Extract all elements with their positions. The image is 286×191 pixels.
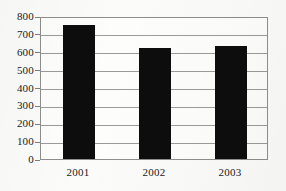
bar-chart-image: 8007006005004003002001000 200120022003 bbox=[0, 0, 286, 191]
bar-2001 bbox=[63, 25, 95, 159]
y-axis-label-group: 8007006005004003002001000 bbox=[0, 0, 34, 191]
x-axis-tick-label: 2001 bbox=[48, 166, 108, 178]
x-axis-tick-label: 2002 bbox=[124, 166, 184, 178]
y-axis-tick-label: 0 bbox=[0, 154, 34, 165]
y-axis-tick-label: 400 bbox=[0, 83, 34, 94]
bar-2002 bbox=[139, 48, 171, 159]
y-axis-tick-label: 200 bbox=[0, 118, 34, 129]
y-axis-tick-label: 300 bbox=[0, 100, 34, 111]
y-axis-tick-label: 500 bbox=[0, 65, 34, 76]
y-axis-tick-label: 800 bbox=[0, 11, 34, 22]
y-axis-tick-label: 700 bbox=[0, 29, 34, 40]
x-axis-tick-label: 2003 bbox=[200, 166, 260, 178]
y-axis-tick-label: 100 bbox=[0, 136, 34, 147]
y-axis-tick-label: 600 bbox=[0, 47, 34, 58]
bar-2003 bbox=[215, 46, 247, 160]
plot-area bbox=[40, 17, 268, 160]
